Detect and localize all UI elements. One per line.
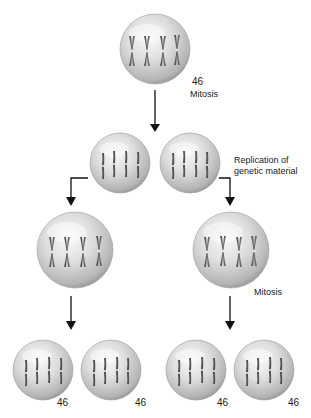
final-cell-1-count: 46 [57,398,68,408]
replicated-cell-right [193,212,269,288]
daughter-cell-right [160,133,220,193]
mitosis-label-2: Mitosis [254,287,282,297]
arrow-mid-left-to-large-left [66,178,88,206]
arrow-parent-to-daughters [150,90,160,132]
mitosis-label-1: Mitosis [190,89,218,99]
final-cell-2 [81,340,141,400]
final-cell-3 [166,340,226,400]
final-cell-2-count: 46 [135,398,146,408]
final-cell-3-count: 46 [217,398,228,408]
diagram-canvas [0,0,311,418]
final-cell-4-count: 46 [288,398,299,408]
arrow-mid-right-to-large-right [219,178,235,206]
mitosis-diagram: 46 Mitosis Replication of genetic materi… [0,0,311,418]
parent-cell [120,14,190,84]
replication-label-line2: genetic material [234,166,298,176]
final-cell-4 [234,340,294,400]
replication-label-line1: Replication of [234,155,289,165]
parent-chromosome-count: 46 [192,77,203,87]
arrow-large-left-to-bottom [66,296,76,330]
arrow-large-right-to-bottom [225,296,235,330]
final-cell-1 [13,340,73,400]
replicated-cell-left [37,212,113,288]
daughter-cell-left [90,133,150,193]
